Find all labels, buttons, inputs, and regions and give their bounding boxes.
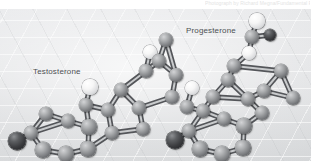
molecule-figure-image: Testosterone Progesterone xyxy=(0,9,311,161)
photo-credit-text: Photograph by Richard Megna/Fundamental … xyxy=(205,0,310,7)
figure-page: Photograph by Richard Megna/Fundamental … xyxy=(0,0,316,168)
carbon-atom xyxy=(227,59,241,73)
light-atom xyxy=(82,79,97,94)
carbon-atom xyxy=(286,91,300,105)
oxygen-atom xyxy=(8,132,26,150)
molecule-label-progesterone: Progesterone xyxy=(186,26,236,35)
carbon-atom xyxy=(235,140,250,155)
carbon-atom xyxy=(80,141,95,156)
carbon-atom xyxy=(214,146,230,161)
carbon-atom xyxy=(81,119,96,134)
light-atom xyxy=(249,13,264,28)
carbon-atom xyxy=(192,141,207,156)
carbon-atom xyxy=(35,142,50,157)
carbon-atom xyxy=(245,30,259,44)
carbon-atom xyxy=(58,146,74,161)
oxygen-atom xyxy=(166,131,184,149)
carbon-atom xyxy=(236,118,251,133)
molecule-label-testosterone: Testosterone xyxy=(33,67,81,76)
carbon-atom xyxy=(152,54,166,68)
